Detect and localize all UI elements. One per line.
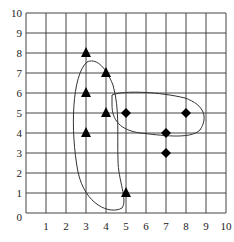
triangle-cluster-outline [73,61,124,210]
diamond-marker [161,128,171,138]
diamond-marker [181,108,191,118]
x-tick-label: 3 [83,220,89,232]
triangle-marker [81,87,91,97]
triangle-marker [101,67,111,77]
y-tick-label: 1 [17,187,23,199]
axis-tick-labels: 12345678910012345678910 [11,7,232,232]
x-tick-label: 1 [43,220,49,232]
y-tick-label: 9 [17,27,23,39]
x-tick-label: 6 [143,220,149,232]
scatter-chart: 12345678910012345678910 [0,0,234,242]
x-tick-label: 2 [63,220,69,232]
triangle-marker [81,47,91,57]
y-tick-label: 3 [17,147,23,159]
triangle-marker [81,127,91,137]
y-tick-label: 5 [17,107,23,119]
y-tick-label: 0 [17,211,23,223]
triangle-marker [101,107,111,117]
diamond-marker [121,108,131,118]
y-tick-label: 4 [17,127,23,139]
diamond-marker [161,148,171,158]
y-tick-label: 6 [17,87,23,99]
x-tick-label: 9 [203,220,209,232]
x-tick-label: 7 [163,220,169,232]
x-tick-label: 8 [183,220,189,232]
data-points [81,47,191,197]
y-tick-label: 7 [17,67,23,79]
y-tick-label: 8 [17,47,23,59]
y-tick-label: 2 [17,167,23,179]
x-tick-label: 10 [221,220,233,232]
x-tick-label: 5 [123,220,129,232]
x-tick-label: 4 [103,220,109,232]
y-tick-label: 10 [11,7,23,19]
